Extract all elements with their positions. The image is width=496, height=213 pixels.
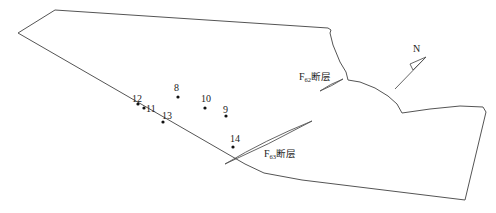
point-label: 9	[223, 104, 228, 115]
point-label: 10	[201, 93, 211, 104]
site-map: F62断层F63断层 810912111314 N	[0, 0, 496, 213]
sampling-point-14: 14	[230, 133, 240, 149]
point-label: 13	[162, 110, 172, 121]
point-marker	[231, 145, 234, 148]
sampling-point-11: 11	[142, 103, 155, 114]
north-arrow-head-icon	[410, 57, 426, 70]
point-label: 14	[230, 133, 240, 144]
sampling-point-8: 8	[174, 82, 180, 99]
north-label: N	[413, 43, 420, 54]
sampling-point-10: 10	[201, 93, 211, 110]
point-marker	[203, 106, 206, 109]
sampling-point-12: 12	[132, 93, 142, 106]
fault-f62: F62断层	[299, 71, 343, 91]
fault-label: F62断层	[299, 71, 331, 83]
sampling-points-layer: 810912111314	[132, 82, 240, 149]
faults-layer: F62断层F63断层	[225, 71, 343, 164]
sampling-point-13: 13	[161, 110, 172, 124]
point-label: 12	[132, 93, 142, 104]
site-boundary	[18, 10, 486, 200]
point-label: 11	[146, 103, 156, 114]
sampling-point-9: 9	[223, 104, 228, 118]
fault-label: F63断层	[264, 148, 296, 160]
north-arrow: N	[395, 43, 426, 89]
point-label: 8	[174, 82, 179, 93]
point-marker	[176, 95, 179, 98]
